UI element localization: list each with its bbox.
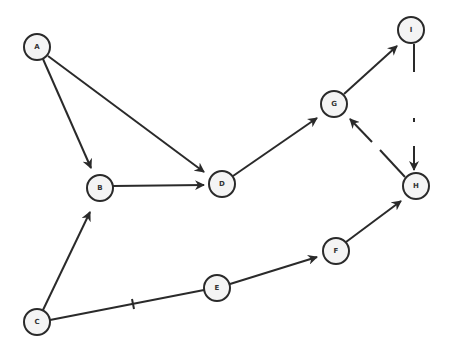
- node-g[interactable]: G: [321, 91, 347, 117]
- graph-canvas: A B D G I H F E C: [0, 0, 455, 353]
- node-c[interactable]: C: [24, 309, 50, 335]
- edge-a-d: [48, 56, 204, 172]
- node-d-label: D: [219, 180, 225, 188]
- node-d[interactable]: D: [209, 171, 235, 197]
- node-i-label: I: [410, 26, 413, 34]
- node-i[interactable]: I: [398, 17, 424, 43]
- edge-h-g-segment2: [350, 119, 372, 142]
- node-b[interactable]: B: [87, 175, 113, 201]
- edge-c-b: [43, 212, 90, 310]
- node-f[interactable]: F: [323, 238, 349, 264]
- edge-b-d: [113, 185, 204, 186]
- node-b-label: B: [97, 184, 102, 192]
- node-g-label: G: [331, 100, 337, 108]
- node-h-label: H: [413, 182, 419, 190]
- edge-c-e: [50, 290, 204, 320]
- edge-d-g: [233, 118, 317, 176]
- node-a[interactable]: A: [24, 34, 50, 60]
- edge-e-f: [230, 257, 317, 284]
- edge-f-h: [346, 201, 401, 242]
- node-e-label: E: [215, 284, 220, 292]
- node-e[interactable]: E: [204, 275, 230, 301]
- edge-c-e-tick: [132, 299, 134, 309]
- edge-h-g-segment1: [380, 150, 405, 177]
- node-c-label: C: [34, 318, 39, 326]
- node-a-label: A: [34, 43, 40, 51]
- node-f-label: F: [334, 247, 339, 255]
- edge-g-i: [344, 46, 397, 94]
- node-h[interactable]: H: [403, 173, 429, 199]
- edge-a-b: [43, 59, 91, 168]
